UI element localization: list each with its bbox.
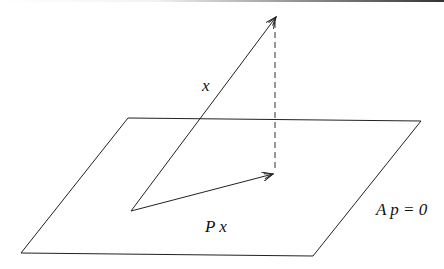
projection-diagram: x P x A p = 0 — [0, 0, 444, 269]
vector-x-label: x — [201, 76, 210, 95]
vector-px-arrow — [131, 174, 273, 211]
vector-px-label: P x — [204, 217, 227, 236]
plane-equation-label: A p = 0 — [375, 200, 428, 219]
vector-x-arrow — [131, 17, 276, 211]
